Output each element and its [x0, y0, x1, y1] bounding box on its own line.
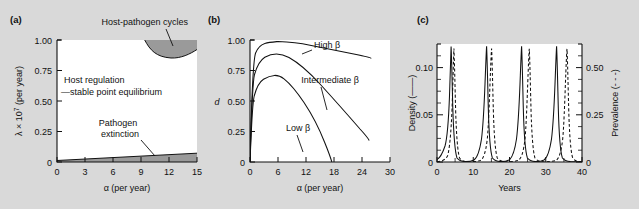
- panel-b-ytick-0: 0: [240, 158, 245, 168]
- annotation-host-pathogen-cycles: Host-pathogen cycles: [101, 17, 188, 27]
- panel-c-xtick-40: 40: [577, 167, 587, 177]
- curve-label-high-beta: High β: [314, 40, 340, 50]
- panel-a-ytick-050: 0.50: [34, 97, 52, 107]
- panel-a-ytick-025: 0.25: [34, 127, 52, 137]
- panel-a: (a): [0, 0, 213, 209]
- panel-a-label: (a): [10, 14, 22, 25]
- annotation-pathogen-extinction-line1: Pathogen: [99, 118, 138, 128]
- panel-a-xtick-12: 12: [164, 167, 174, 177]
- panel-b-ytick-100: 1.00: [227, 36, 245, 46]
- panel-c-left-ytick-005: 0.05: [415, 110, 433, 120]
- panel-c-xtick-10: 10: [468, 167, 478, 177]
- panel-b-ytick-050: 0.50: [227, 97, 245, 107]
- figure-container: (a): [0, 0, 639, 209]
- panel-b-x-axis-title: α (per year): [297, 183, 344, 193]
- panel-c-xtick-20: 20: [504, 167, 514, 177]
- panel-a-xtick-0: 0: [54, 167, 59, 177]
- panel-a-x-axis-title: α (per year): [104, 183, 151, 193]
- annotation-host-regulation-line1: Host regulation: [64, 75, 125, 85]
- panel-c-left-ytick-010: 0.10: [415, 63, 433, 73]
- panel-a-y-axis-title: λ × 107 (per year): [13, 66, 24, 136]
- panel-b-plot: 1.00 0.75 0.50 0.25 0 0 6 12 18 24 30 α …: [205, 0, 410, 209]
- panel-c-left-ytick-0: 0: [428, 158, 433, 168]
- curve-label-intermediate-beta: Intermediate β: [301, 75, 359, 85]
- panel-c-left-axis-title: Density (——): [407, 75, 417, 132]
- panel-b-xtick-18: 18: [329, 167, 339, 177]
- panel-b-xtick-12: 12: [301, 167, 311, 177]
- panel-b-ytick-075: 0.75: [227, 66, 245, 76]
- panel-b-xtick-30: 30: [385, 167, 395, 177]
- panel-c-right-ytick-050: 0.50: [586, 63, 604, 73]
- panel-b-xtick-24: 24: [357, 167, 367, 177]
- panel-a-xtick-15: 15: [192, 167, 202, 177]
- panel-c: (c): [405, 0, 639, 209]
- panel-c-right-ytick-0: 0: [586, 158, 591, 168]
- panel-c-xtick-30: 30: [541, 167, 551, 177]
- annotation-pathogen-extinction-line2: extinction: [101, 129, 139, 139]
- curve-label-low-beta: Low β: [286, 123, 310, 133]
- panel-b-xtick-6: 6: [275, 167, 280, 177]
- panel-a-ytick-100: 1.00: [34, 36, 52, 46]
- panel-b-ytick-025: 0.25: [227, 127, 245, 137]
- panel-b-y-axis-title: d: [214, 97, 220, 107]
- panel-a-ytick-075: 0.75: [34, 66, 52, 76]
- panel-a-xtick-9: 9: [138, 167, 143, 177]
- panel-b-plot-area: [250, 40, 390, 162]
- panel-a-plot: 1.00 0.75 0.50 0.25 0 0 3 6 9 12 15 α (p…: [0, 0, 213, 209]
- panel-b: (b): [205, 0, 410, 209]
- panel-c-plot: 0 0.05 0.10 0 0.25 0.50 0 10 20 30 40 Ye…: [405, 0, 639, 209]
- annotation-host-regulation-line2: —stable point equilibrium: [61, 87, 162, 97]
- panel-c-x-axis-title: Years: [498, 183, 521, 193]
- panel-c-xtick-0: 0: [434, 167, 439, 177]
- panel-c-right-ytick-025: 0.25: [586, 110, 604, 120]
- panel-b-label: (b): [208, 14, 220, 25]
- panel-b-xtick-0: 0: [247, 167, 252, 177]
- panel-a-xtick-6: 6: [110, 167, 115, 177]
- panel-a-xtick-3: 3: [82, 167, 87, 177]
- panel-c-label: (c): [417, 14, 429, 25]
- panel-c-right-axis-title: Prevalence (- - -): [610, 69, 620, 137]
- panel-a-ytick-0: 0: [47, 158, 52, 168]
